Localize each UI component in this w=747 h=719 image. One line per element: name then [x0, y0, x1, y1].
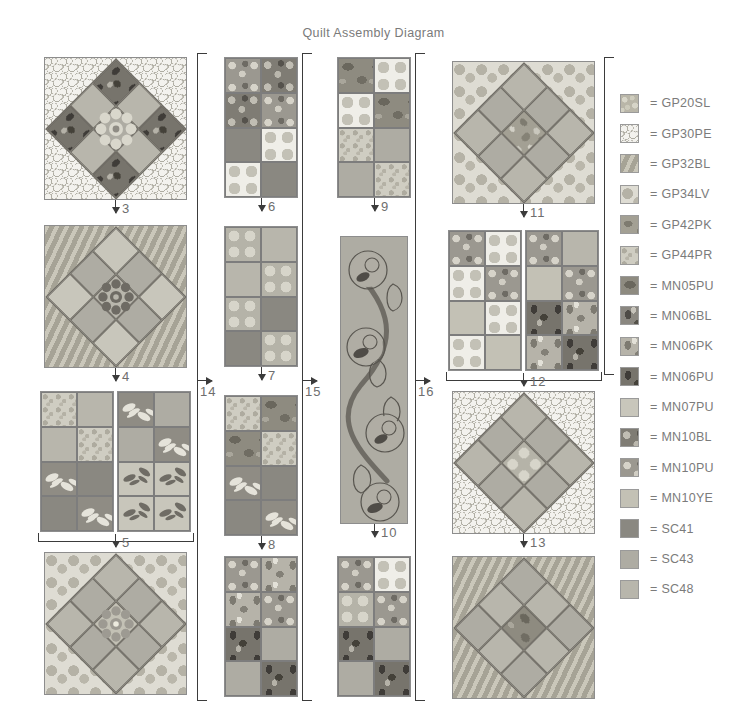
swatch-gp30pe-icon	[620, 124, 639, 143]
patch	[449, 231, 485, 266]
patch	[118, 427, 154, 462]
patch	[154, 427, 190, 462]
patch	[526, 266, 562, 301]
patch	[225, 592, 261, 627]
patch	[374, 557, 410, 592]
legend-row[interactable]: = GP30PE	[620, 118, 714, 148]
legend-row[interactable]: = MN06PK	[620, 331, 714, 361]
patch	[374, 93, 410, 128]
arrow-step-10	[374, 524, 375, 537]
legend-row[interactable]: = SC48	[620, 574, 714, 604]
legend-row[interactable]: = SC43	[620, 544, 714, 574]
step-label-11: 11	[530, 205, 546, 220]
patch	[338, 661, 374, 696]
patch	[77, 427, 113, 462]
legend-row[interactable]: = MN07PU	[620, 392, 714, 422]
arrow-step-5	[115, 534, 116, 547]
legend-row[interactable]: = MN05PU	[620, 270, 714, 300]
patch	[41, 392, 77, 427]
diagram-canvas: 3 4	[0, 0, 747, 719]
arrow-step-15	[303, 380, 317, 381]
legend-label: GP20SL	[661, 96, 710, 110]
flower-motif-3	[93, 106, 139, 152]
legend-row[interactable]: = GP42PK	[620, 210, 714, 240]
patch	[261, 331, 297, 366]
swatch-mn06pk-icon	[620, 337, 639, 356]
patch	[485, 266, 521, 301]
patch	[374, 661, 410, 696]
patch	[261, 592, 297, 627]
patch	[261, 262, 297, 297]
patch	[338, 128, 374, 163]
block-4[interactable]	[44, 225, 187, 368]
patch	[118, 496, 154, 531]
step-label-7: 7	[268, 368, 276, 383]
patch	[225, 227, 261, 262]
arrow-step-4	[115, 368, 116, 381]
unit-2b[interactable]	[525, 230, 599, 371]
patch	[118, 392, 154, 427]
block-9[interactable]	[337, 57, 411, 198]
legend-row[interactable]: = GP20SL	[620, 88, 714, 118]
block-8[interactable]	[224, 395, 298, 536]
swatch-mn10pu-icon	[620, 458, 639, 477]
legend-row[interactable]: = SC41	[620, 513, 714, 543]
step-label-9: 9	[381, 199, 389, 214]
swatch-mn06pu-icon	[620, 367, 639, 386]
block-17[interactable]	[224, 556, 298, 697]
block-7[interactable]	[224, 226, 298, 367]
block-11[interactable]	[452, 61, 595, 204]
legend-row[interactable]: = GP44PR	[620, 240, 714, 270]
patch	[338, 557, 374, 592]
patch	[449, 266, 485, 301]
step-label-10: 10	[381, 525, 397, 540]
patch	[374, 58, 410, 93]
legend-equals: =	[650, 218, 658, 232]
patch	[225, 162, 261, 197]
patch	[225, 661, 261, 696]
arrow-step-8	[261, 536, 262, 549]
patch	[41, 427, 77, 462]
legend-equals: =	[650, 461, 658, 475]
legend-row[interactable]: = MN06PU	[620, 362, 714, 392]
patch	[449, 301, 485, 336]
block-6[interactable]	[224, 57, 298, 198]
patch	[261, 661, 297, 696]
patch	[374, 162, 410, 197]
block-5[interactable]	[44, 552, 187, 695]
legend-row[interactable]: = GP34LV	[620, 179, 714, 209]
arrow-step-12	[523, 373, 524, 386]
patch	[261, 58, 297, 93]
unit-1a[interactable]	[40, 391, 114, 532]
legend-row[interactable]: = GP32BL	[620, 149, 714, 179]
step-label-14: 14	[200, 384, 216, 399]
arrow-step-14	[198, 380, 212, 381]
patch	[225, 58, 261, 93]
legend-label: MN10YE	[661, 491, 713, 505]
patch	[261, 128, 297, 163]
patch	[77, 392, 113, 427]
block-18[interactable]	[337, 556, 411, 697]
panel-10-applique[interactable]	[340, 236, 408, 524]
legend-row[interactable]: = MN10YE	[620, 483, 714, 513]
block-3[interactable]	[44, 57, 187, 200]
swatch-mn10bl-icon	[620, 428, 639, 447]
unit-1b[interactable]	[117, 391, 191, 532]
legend-row[interactable]: = MN10PU	[620, 453, 714, 483]
legend-label: MN07PU	[661, 400, 714, 414]
swatch-mn05pu-icon	[620, 276, 639, 295]
swatch-mn07pu-icon	[620, 398, 639, 417]
legend-label: SC43	[661, 552, 693, 566]
block-12[interactable]	[452, 391, 595, 534]
patch	[261, 466, 297, 501]
block-13[interactable]	[452, 556, 595, 699]
patch	[485, 335, 521, 370]
patch	[225, 466, 261, 501]
legend-row[interactable]: = MN06BL	[620, 301, 714, 331]
legend-row[interactable]: = MN10BL	[620, 422, 714, 452]
legend-equals: =	[650, 187, 658, 201]
unit-2a[interactable]	[448, 230, 522, 371]
patch	[526, 231, 562, 266]
swatch-mn10ye-icon	[620, 489, 639, 508]
patch	[225, 128, 261, 163]
